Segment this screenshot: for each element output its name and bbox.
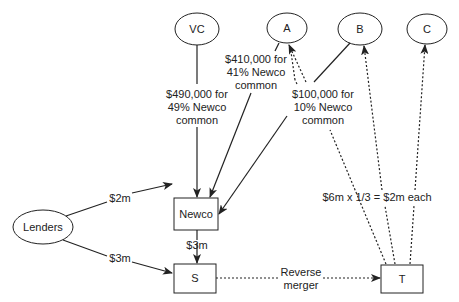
- edge-a-newco-label-2: 41% Newco: [227, 66, 286, 78]
- node-vc: VC: [175, 13, 219, 45]
- node-newco: Newco: [174, 198, 218, 230]
- edge-vc-newco-label-3: common: [176, 114, 218, 126]
- node-t-label: T: [399, 273, 406, 285]
- edge-s-t-label-1: Reverse: [281, 266, 322, 278]
- node-b-label: B: [356, 23, 363, 35]
- node-b: B: [338, 13, 382, 45]
- edge-a-newco-label-3: common: [235, 79, 277, 91]
- edge-t-shareholders-label: $6m x 1/3 = $2m each: [322, 191, 431, 203]
- edge-lenders-s-label: $3m: [109, 252, 130, 264]
- edge-s-t: Reverse merger: [216, 266, 380, 291]
- node-vc-label: VC: [189, 23, 204, 35]
- edge-t-shareholders: $6m x 1/3 = $2m each: [289, 45, 432, 264]
- edge-vc-newco-label-2: 49% Newco: [168, 101, 227, 113]
- node-c: C: [407, 14, 447, 44]
- edge-a-newco-label-1: $410,000 for: [225, 53, 287, 65]
- edge-lenders-s: $3m: [63, 240, 172, 273]
- edge-b-newco-label-2: 10% Newco: [294, 101, 353, 113]
- edge-a-newco: $410,000 for 41% Newco common: [210, 43, 287, 197]
- edge-s-t-label-2: merger: [284, 279, 319, 291]
- edge-b-newco-label-3: common: [302, 114, 344, 126]
- edge-vc-newco-label-1: $490,000 for: [166, 88, 228, 100]
- node-lenders: Lenders: [13, 210, 73, 244]
- deal-structure-diagram: VC A B C Newco Lenders S T $490,000 for …: [0, 0, 459, 302]
- node-s-label: S: [191, 272, 198, 284]
- edge-b-newco-label-1: $100,000 for: [292, 88, 354, 100]
- edge-lenders-newco-label: $2m: [109, 192, 130, 204]
- node-newco-label: Newco: [179, 208, 213, 220]
- node-c-label: C: [423, 23, 431, 35]
- node-s: S: [174, 264, 216, 293]
- node-t: T: [381, 265, 423, 293]
- node-a: A: [267, 13, 307, 43]
- node-lenders-label: Lenders: [23, 221, 63, 233]
- edge-lenders-newco: $2m: [66, 184, 172, 216]
- edge-newco-s: $3m: [186, 230, 207, 263]
- node-a-label: A: [283, 22, 291, 34]
- edge-newco-s-label: $3m: [186, 239, 207, 251]
